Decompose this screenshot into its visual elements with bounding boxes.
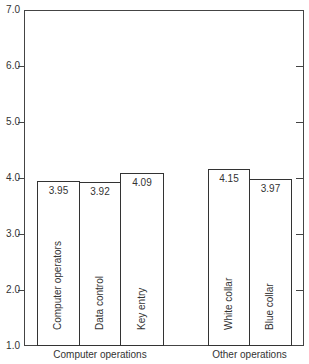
bar-category-label: Data control	[94, 276, 105, 330]
y-tick-label: 1.0	[0, 340, 20, 351]
y-tick-mark-left	[18, 122, 24, 123]
group-label-other-operations: Other operations	[208, 349, 291, 360]
y-tick-label: 6.0	[0, 60, 20, 71]
bar-category-label: Computer operators	[52, 241, 63, 330]
y-tick-label: 3.0	[0, 228, 20, 239]
bar-category-label: Blue collar	[264, 283, 275, 330]
bar-value-label: 3.95	[38, 185, 79, 196]
bar-chart: 1.02.03.04.05.06.07.0 3.95Computer opera…	[0, 0, 309, 364]
group-label-computer-operations: Computer operations	[37, 349, 163, 360]
y-tick-mark-right	[296, 178, 303, 179]
bar-value-label: 3.92	[80, 186, 120, 197]
y-tick-label: 4.0	[0, 172, 20, 183]
y-tick-mark-right	[296, 234, 303, 235]
bar-value-label: 4.15	[209, 173, 249, 184]
y-tick-label: 2.0	[0, 284, 20, 295]
y-tick-label: 7.0	[0, 4, 20, 15]
y-tick-mark-right	[296, 122, 303, 123]
y-tick-mark-left	[18, 290, 24, 291]
bar-category-label: White collar	[223, 278, 234, 330]
y-tick-label: 5.0	[0, 116, 20, 127]
bar-value-label: 4.09	[121, 177, 163, 188]
y-tick-mark-left	[18, 234, 24, 235]
bar-value-label: 3.97	[250, 183, 291, 194]
y-tick-mark-right	[296, 66, 303, 67]
bar-category-label: Key entry	[136, 288, 147, 330]
y-tick-mark-left	[18, 178, 24, 179]
y-tick-mark-left	[18, 66, 24, 67]
y-tick-mark-right	[296, 290, 303, 291]
